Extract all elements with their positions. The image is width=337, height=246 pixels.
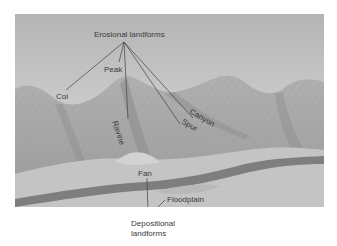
floodplain-label: Floodplain	[167, 196, 204, 204]
erosional-landforms-label: Erosional landforms	[94, 31, 165, 39]
depositional-landforms-label: Depositional landforms	[131, 219, 175, 239]
peak-label: Peak	[104, 66, 122, 74]
fan-label: Fan	[138, 170, 152, 178]
col-label: Col	[56, 93, 68, 101]
mountain-landscape-illustration	[15, 14, 324, 207]
